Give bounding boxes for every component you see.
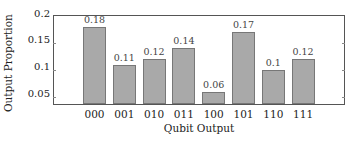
y-tick: 0.1 — [14, 61, 50, 72]
y-tick: 0.05 — [14, 88, 50, 99]
bar-value-label: 0.14 — [164, 35, 204, 46]
bar-111 — [292, 59, 315, 104]
bar-value-label: 0.18 — [75, 14, 115, 25]
bar-001 — [113, 65, 136, 104]
bar-100 — [202, 92, 225, 104]
bar-value-label: 0.12 — [283, 46, 323, 57]
x-tick: 111 — [283, 108, 323, 120]
bar-chart: Output Proportion 0.05 0.1 0.15 0.2 0.18… — [0, 0, 360, 143]
bar-010 — [143, 59, 166, 104]
bar-value-label: 0.17 — [224, 19, 264, 30]
y-tick-mark — [342, 43, 345, 44]
y-tick-mark — [53, 97, 56, 98]
bar-110 — [262, 70, 285, 104]
bar-101 — [232, 32, 255, 104]
y-tick: 0.2 — [14, 8, 50, 19]
y-tick-mark — [53, 43, 56, 44]
x-axis-label: Qubit Output — [53, 122, 345, 134]
bar-value-label: 0.06 — [194, 79, 234, 90]
y-tick: 0.15 — [14, 34, 50, 45]
bar-value-label: 0.1 — [253, 57, 293, 68]
y-tick-mark — [342, 70, 345, 71]
y-tick-mark — [342, 97, 345, 98]
bar-011 — [172, 48, 195, 104]
bar-value-label: 0.12 — [134, 46, 174, 57]
y-tick-mark — [53, 70, 56, 71]
bar-000 — [83, 27, 106, 104]
